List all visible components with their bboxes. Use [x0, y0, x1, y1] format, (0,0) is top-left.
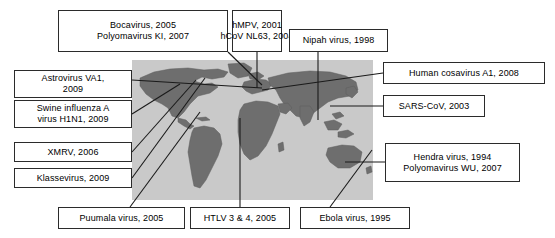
label-hendra: Hendra virus, 1994 Polyomavirus WU, 2007 [385, 143, 520, 182]
world-map-landmasses [132, 60, 373, 200]
scandinavia [248, 72, 264, 80]
india [300, 106, 314, 126]
greenland [228, 63, 252, 78]
world-map-image [132, 60, 373, 200]
label-swine-line1: Swine influenza A [37, 103, 110, 114]
europe [242, 79, 272, 94]
label-puumala-line1: Puumala virus, 2005 [80, 213, 164, 224]
label-astrovirus-line2: 2009 [63, 84, 83, 95]
label-nipah-line1: Nipah virus, 1998 [303, 35, 375, 46]
label-bocavirus-line1: Bocavirus, 2005 [110, 20, 176, 31]
label-cosavirus-line1: Human cosavirus A1, 2008 [409, 68, 519, 79]
label-htlv-line1: HTLV 3 & 4, 2005 [204, 213, 276, 224]
caribbean-islands [196, 117, 210, 121]
label-ebola: Ebola virus, 1995 [300, 207, 410, 229]
indonesia-east [338, 130, 354, 138]
label-hendra-line1: Hendra virus, 1994 [414, 152, 492, 163]
south-america [188, 126, 222, 188]
label-xmrv-line1: XMRV, 2006 [47, 147, 98, 158]
label-nipah: Nipah virus, 1998 [289, 29, 388, 52]
label-sars-line1: SARS-CoV, 2003 [399, 101, 470, 112]
new-zealand [366, 166, 372, 174]
label-hmpv-line1: hMPV, 2001 [232, 20, 282, 31]
label-human-cosavirus: Human cosavirus A1, 2008 [383, 62, 545, 84]
label-xmrv: XMRV, 2006 [14, 142, 132, 162]
virus-discovery-world-map-figure: Bocavirus, 2005 Polyomavirus KI, 2007 hM… [0, 0, 555, 238]
label-puumala: Puumala virus, 2005 [58, 207, 185, 229]
label-hmpv-line2: hCoV NL63, 2004 [220, 31, 293, 42]
label-hmpv: hMPV, 2001 hCoV NL63, 2004 [232, 10, 282, 52]
label-swine-influenza: Swine influenza A virus H1N1, 2009 [14, 100, 132, 128]
label-sars-cov: SARS-CoV, 2003 [383, 95, 485, 117]
philippines [332, 112, 344, 119]
label-bocavirus: Bocavirus, 2005 Polyomavirus KI, 2007 [58, 10, 228, 52]
label-klassevirus: Klassevirus, 2009 [14, 168, 132, 188]
australia [326, 145, 362, 168]
madagascar [278, 142, 284, 152]
label-klassevirus-line1: Klassevirus, 2009 [37, 173, 110, 184]
label-astrovirus-line1: Astrovirus VA1, [42, 73, 105, 84]
label-htlv: HTLV 3 & 4, 2005 [190, 207, 290, 229]
label-swine-line2: virus H1N1, 2009 [37, 114, 108, 125]
label-astrovirus: Astrovirus VA1, 2009 [14, 70, 132, 98]
label-hendra-line2: Polyomavirus WU, 2007 [403, 163, 502, 174]
label-bocavirus-line2: Polyomavirus KI, 2007 [97, 31, 189, 42]
africa [238, 101, 280, 160]
indonesia-west [324, 120, 342, 130]
central-america [178, 118, 194, 129]
north-america [140, 68, 228, 118]
label-ebola-line1: Ebola virus, 1995 [319, 213, 390, 224]
